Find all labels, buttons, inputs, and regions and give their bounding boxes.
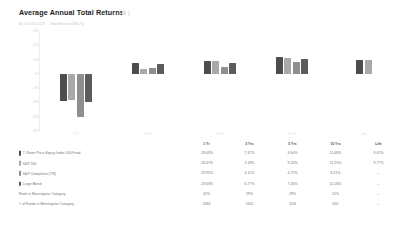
table-cell: 1366	[185, 202, 228, 206]
table-row-cells: -19.63%6.77%7.56%10.26%–	[185, 182, 400, 186]
table-cell: -19.03%	[185, 151, 228, 155]
table-row-cells: 136612011116820–	[185, 202, 400, 206]
table-cell: –	[357, 182, 400, 186]
table-cell: 820	[314, 202, 357, 206]
y-axis-tick: -40%	[32, 129, 39, 133]
table-cell: 8.21%	[314, 171, 357, 175]
returns-panel: Average Annual Total Returns As of 12/31…	[0, 0, 409, 228]
bar	[60, 74, 67, 101]
table-cell: 6.77%	[228, 182, 271, 186]
bar-group: 1 Yr	[40, 31, 112, 131]
table-row-label-text: Rank in Morningstar Category	[19, 192, 66, 196]
table-row-label-text: S&P 500	[23, 161, 37, 165]
bar	[157, 64, 164, 74]
table-row-label: S&P Completion (TR)	[19, 171, 56, 176]
bar-group-bars	[256, 31, 328, 131]
table-row-label: # of Funds in Morningstar Category	[19, 202, 74, 206]
table-cell: 7.56%	[271, 182, 314, 186]
bar	[276, 57, 283, 73]
table-cell: 7.47%	[228, 151, 271, 155]
bar	[356, 60, 363, 74]
table-row-cells: 45%29%29%21%–	[185, 192, 400, 196]
bar-group: Life	[328, 31, 400, 131]
table-row: T. Rowe Price Equity Index 500 Fund-19.0…	[0, 148, 409, 158]
table-cell: 1201	[228, 202, 271, 206]
table-row-label: Rank in Morningstar Category	[19, 192, 66, 196]
y-axis-tick: -30%	[32, 115, 39, 119]
bar	[293, 62, 300, 74]
bar	[85, 74, 92, 102]
table-row: Rank in Morningstar Category45%29%29%21%…	[0, 189, 409, 199]
table-row-label: S&P 500	[19, 161, 36, 166]
returns-bar-chart: 30%20%10%0%-10%-20%-30%-40% 1 Yr3 Yrs5 Y…	[0, 31, 409, 138]
table-cell: 4.15%	[228, 171, 271, 175]
x-axis-tick: 3 Yrs	[112, 132, 184, 136]
bar	[229, 63, 236, 74]
x-axis-tick: 5 Yrs	[184, 132, 256, 136]
table-row-cells: -29.92%4.15%4.72%8.21%–	[185, 171, 400, 175]
table-cell: -19.63%	[185, 182, 228, 186]
chart-y-axis: 30%20%10%0%-10%-20%-30%-40%	[17, 31, 39, 131]
x-axis-tick: 10 Yrs	[256, 132, 328, 136]
bar	[77, 74, 84, 117]
x-axis-tick: 1 Yr	[40, 132, 112, 136]
bar-group-bars	[328, 31, 400, 131]
table-cell: 4.72%	[271, 171, 314, 175]
table-column-header: 5 Yrs	[271, 142, 314, 146]
table-cell: –	[357, 192, 400, 196]
table-column-header: 10 Yrs	[314, 142, 357, 146]
subtitle-units: Total Returns (USD %)	[50, 22, 84, 26]
table-cell: 9.24%	[271, 161, 314, 165]
x-axis-tick: Life	[328, 132, 400, 136]
bar	[365, 60, 372, 74]
table-column-header: 1 Yr	[185, 142, 228, 146]
table-cell: 1116	[271, 202, 314, 206]
y-axis-tick: -20%	[32, 100, 39, 104]
table-header-row: 1 Yr3 Yrs5 Yrs10 YrsLife	[0, 139, 409, 148]
table-cell: –	[357, 171, 400, 175]
bar-group: 5 Yrs	[184, 31, 256, 131]
bar	[68, 74, 75, 100]
legend-swatch-icon	[19, 161, 21, 166]
table-row-label-text: # of Funds in Morningstar Category	[19, 202, 74, 206]
table-cell: 10.26%	[314, 182, 357, 186]
table-cell: 9.47%	[357, 151, 400, 155]
table-cell: -29.92%	[185, 171, 228, 175]
page-title: Average Annual Total Returns	[19, 8, 401, 17]
table-cell: 3.18%	[228, 161, 271, 165]
table-row: S&P 500-18.47%3.18%9.24%11.13%9.77%	[0, 158, 409, 168]
table-column-header: 3 Yrs	[228, 142, 271, 146]
legend-swatch-icon	[19, 171, 21, 176]
y-axis-tick: -10%	[32, 86, 39, 90]
bar	[284, 58, 291, 74]
table-row-label-text: S&P Completion (TR)	[23, 171, 57, 175]
bar-group: 10 Yrs	[256, 31, 328, 131]
table-row-cells: -19.03%7.47%9.00%11.48%9.47%	[185, 151, 400, 155]
table-cell: 21%	[314, 192, 357, 196]
table-cell: -18.47%	[185, 161, 228, 165]
bar-group-bars	[184, 31, 256, 131]
table-cell: 29%	[228, 192, 271, 196]
chart-plot-area: 1 Yr3 Yrs5 Yrs10 YrsLife	[40, 31, 400, 131]
table-cell: 11.13%	[314, 161, 357, 165]
chart-subtitle: As of 12/31/2023Total Returns (USD %)	[19, 22, 401, 27]
subtitle-asof: As of 12/31/2023	[19, 22, 45, 26]
bar	[212, 61, 219, 74]
bar-group-bars	[40, 31, 112, 131]
table-row-cells: -18.47%3.18%9.24%11.13%9.77%	[185, 161, 400, 165]
legend-swatch-icon	[19, 151, 21, 156]
table-cell: 9.00%	[271, 151, 314, 155]
table-cell: 11.48%	[314, 151, 357, 155]
bar	[221, 67, 228, 74]
table-row-label: Large Blend	[19, 181, 42, 186]
bar-group: 3 Yrs	[112, 31, 184, 131]
bar	[140, 69, 147, 74]
table-row-label: T. Rowe Price Equity Index 500 Fund	[19, 151, 81, 156]
bar	[149, 68, 156, 74]
legend-swatch-icon	[19, 181, 21, 186]
table-cell: 9.77%	[357, 161, 400, 165]
header-decoration-icon	[122, 11, 130, 16]
panel-header: Average Annual Total Returns As of 12/31…	[19, 8, 401, 27]
bar-group-bars	[112, 31, 184, 131]
table-column-header: Life	[357, 142, 400, 146]
